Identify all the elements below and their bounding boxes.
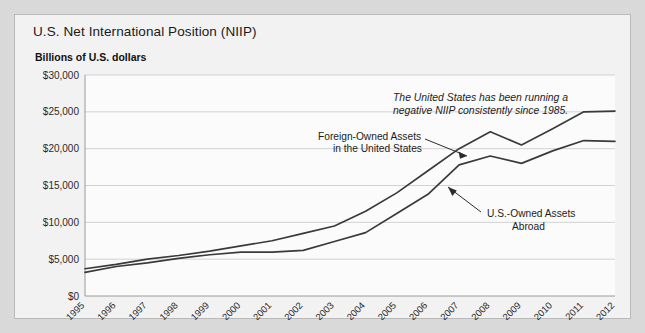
note-line-1: The United States has been running a	[393, 92, 568, 103]
y-tick-label: $10,000	[43, 217, 80, 228]
chart-figure: U.S. Net International Position (NIIP) B…	[14, 14, 631, 319]
us-owned-label-line-2: Abroad	[512, 221, 545, 232]
x-tick-label: 2003	[313, 300, 336, 320]
x-tick-label: 2008	[469, 300, 492, 320]
x-tick-label: 1995	[64, 300, 87, 320]
x-axis-tick-labels: 1995199619971998199920002001200220032004…	[64, 300, 617, 320]
us-owned-label-line-1: U.S.-Owned Assets	[487, 208, 575, 219]
x-tick-label: 2007	[438, 300, 461, 320]
note-line-2: negative NIIP consistently since 1985.	[393, 105, 568, 116]
foreign-owned-label-line-2: in the United States	[333, 143, 422, 154]
x-tick-label: 1997	[126, 300, 149, 320]
foreign-owned-label-line-1: Foreign-Owned Assets	[318, 131, 421, 142]
x-tick-label: 1996	[95, 300, 118, 320]
y-tick-label: $25,000	[43, 106, 80, 117]
x-tick-label: 2001	[251, 300, 274, 320]
niip-line-chart: $0$5,000$10,000$15,000$20,000$25,000$30,…	[15, 15, 632, 320]
y-tick-label: $20,000	[43, 143, 80, 154]
y-axis-tick-labels: $0$5,000$10,000$15,000$20,000$25,000$30,…	[43, 70, 80, 302]
x-tick-label: 2011	[563, 300, 585, 320]
x-tick-label: 1999	[188, 300, 211, 320]
x-tick-label: 1998	[157, 300, 180, 320]
y-tick-label: $30,000	[43, 70, 80, 81]
x-tick-label: 2010	[531, 300, 554, 320]
x-tick-label: 2000	[220, 300, 243, 320]
y-tick-label: $15,000	[43, 180, 80, 191]
y-tick-label: $5,000	[48, 254, 79, 265]
x-tick-label: 2009	[500, 300, 523, 320]
x-tick-label: 2006	[407, 300, 430, 320]
x-tick-label: 2002	[282, 300, 305, 320]
x-tick-label: 2005	[375, 300, 398, 320]
x-tick-label: 2004	[344, 300, 367, 320]
x-tick-label: 2012	[594, 300, 617, 320]
plot-area: $0$5,000$10,000$15,000$20,000$25,000$30,…	[15, 15, 632, 320]
